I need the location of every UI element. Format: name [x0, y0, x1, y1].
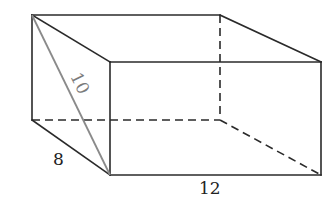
- length-label: 12: [199, 178, 221, 198]
- edge-top-right: [220, 15, 321, 62]
- depth-label: 8: [53, 149, 64, 169]
- hidden-edge-bottom-right: [220, 120, 321, 175]
- edge-bottom-left: [32, 120, 110, 175]
- rectangular-prism-diagram: 10 8 12: [0, 0, 331, 211]
